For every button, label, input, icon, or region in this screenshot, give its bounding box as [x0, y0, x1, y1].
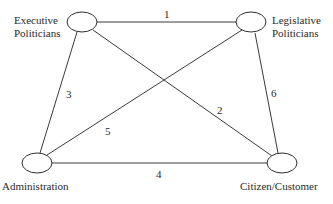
label-administration: Administration: [2, 180, 69, 193]
label-legislative-line1: Legislative: [272, 14, 321, 27]
label-citizen-customer: Citizen/Customer: [240, 180, 318, 193]
node-legislative-politicians: [236, 12, 266, 32]
edge-2-executive-citizen: [93, 30, 272, 156]
edge-label-6: 6: [271, 87, 277, 99]
edge-label-1: 1: [164, 8, 170, 20]
edge-label-2: 2: [217, 104, 223, 116]
edge-label-3: 3: [66, 88, 72, 100]
label-legislative-politicians: Legislative Politicians: [272, 14, 321, 40]
stakeholder-network-diagram: Executive Politicians Legislative Politi…: [0, 0, 333, 204]
label-executive-line1: Executive: [14, 14, 60, 27]
edge-5-administration-legislative: [47, 30, 242, 155]
label-executive-politicians: Executive Politicians: [14, 14, 60, 40]
label-legislative-line2: Politicians: [272, 27, 321, 40]
node-administration: [22, 153, 52, 173]
edge-label-5: 5: [105, 125, 111, 137]
node-executive-politicians: [67, 12, 97, 32]
edge-label-4: 4: [156, 168, 162, 180]
label-executive-line2: Politicians: [14, 27, 60, 40]
node-citizen-customer: [267, 153, 297, 173]
